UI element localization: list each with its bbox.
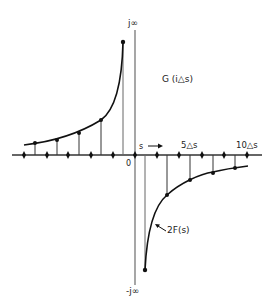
g-curve: [24, 42, 123, 145]
g-sample-points: [33, 40, 125, 145]
g-stems: [35, 42, 123, 155]
s-label: s: [139, 142, 143, 151]
five-delta-s-label: 5△s: [181, 140, 198, 150]
s-arrow-icon: [148, 144, 163, 149]
minus-j-infinity-label: -j∞: [126, 286, 139, 296]
f-stems: [145, 155, 235, 270]
diagram-canvas: j∞ -j∞ 0 s 5△s 10△s G (i△s) 2F(s): [0, 0, 271, 306]
origin-label: 0: [126, 159, 131, 168]
f-sample-points: [143, 166, 237, 272]
g-function-label: G (i△s): [162, 74, 193, 84]
j-infinity-label: j∞: [127, 18, 138, 28]
f-curve: [145, 166, 248, 270]
f-label-leader: [155, 224, 166, 231]
sampled-function-diagram: j∞ -j∞ 0 s 5△s 10△s G (i△s) 2F(s): [0, 0, 271, 306]
ten-delta-s-label: 10△s: [236, 140, 258, 150]
f-function-label: 2F(s): [167, 225, 190, 235]
